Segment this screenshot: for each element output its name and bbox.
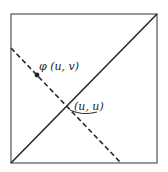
label-diag-point: (u, u): [74, 100, 104, 113]
diagram-canvas: φ (u, v) (u, u): [0, 0, 168, 172]
label-phi: φ (u, v): [39, 60, 79, 73]
solid-diagonal: [11, 14, 157, 163]
point-phi-marker: [35, 73, 40, 78]
